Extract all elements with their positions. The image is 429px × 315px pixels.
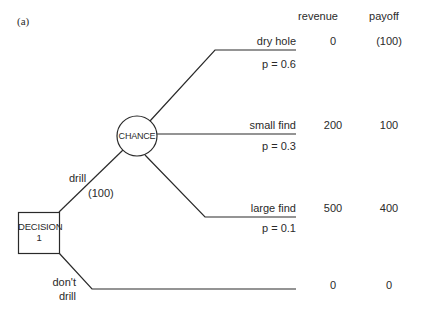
dont-drill-payoff: 0 bbox=[369, 279, 409, 291]
large-find-probability: p = 0.1 bbox=[216, 222, 296, 234]
small-find-probability: p = 0.3 bbox=[216, 140, 296, 152]
revenue-column-header: revenue bbox=[288, 10, 348, 22]
dry-hole-revenue: 0 bbox=[318, 35, 348, 47]
figure-label: (a) bbox=[17, 15, 29, 27]
small-find-label: small find bbox=[216, 119, 296, 131]
small-find-revenue: 200 bbox=[318, 119, 348, 131]
decision-tree-lines bbox=[0, 0, 429, 315]
dry-hole-label: dry hole bbox=[216, 35, 296, 47]
dont-drill-revenue: 0 bbox=[318, 279, 348, 291]
large-find-label: large find bbox=[216, 202, 296, 214]
decision-node-title: DECISION bbox=[18, 221, 60, 232]
payoff-column-header: payoff bbox=[354, 10, 414, 22]
dont-drill-label-line2: drill bbox=[40, 290, 76, 302]
chance-node-label: CHANCE bbox=[117, 131, 157, 142]
dont-drill-branch bbox=[59, 253, 296, 289]
decision-node-label: DECISION 1 bbox=[18, 221, 60, 243]
small-find-payoff: 100 bbox=[369, 119, 409, 131]
dry-hole-payoff: (100) bbox=[369, 35, 409, 47]
drill-branch-label: drill bbox=[69, 172, 86, 184]
decision-node-number: 1 bbox=[18, 232, 60, 243]
drill-cost-label: (100) bbox=[88, 187, 114, 199]
large-find-revenue: 500 bbox=[318, 202, 348, 214]
dont-drill-label-line1: don't bbox=[40, 276, 76, 288]
dry-hole-probability: p = 0.6 bbox=[216, 58, 296, 70]
large-find-payoff: 400 bbox=[369, 202, 409, 214]
